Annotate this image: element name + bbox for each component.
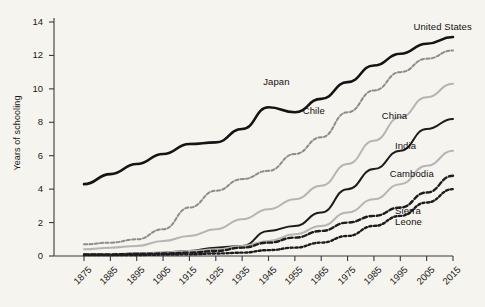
y-tick-label: 8 [21,116,43,127]
y-axis-title: Years of schooling [12,78,22,188]
chart-plot-area [0,0,485,307]
y-tick-label: 10 [21,83,43,94]
series-label-china: China [382,110,407,121]
y-tick-label: 14 [21,16,43,27]
y-tick-label: 6 [21,150,43,161]
y-tick-label: 0 [21,250,43,261]
y-tick-label: 2 [21,217,43,228]
series-label-japan: Japan [263,76,289,87]
series-label-chile: Chile [303,105,325,116]
y-tick-label: 12 [21,49,43,60]
series-label-india: India [395,140,416,151]
series-label-sierra-leone: Sierra Leone [395,205,422,227]
series-label-united-states: United States [413,21,471,32]
y-tick-label: 4 [21,183,43,194]
series-label-cambodia: Cambodia [390,168,434,179]
schooling-line-chart: Years of schooling 02468101214 187518851… [0,0,485,307]
